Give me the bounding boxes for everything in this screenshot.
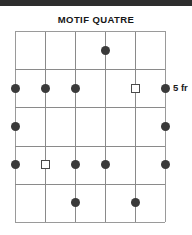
filled-marker-s1-f2 bbox=[11, 84, 20, 93]
filled-marker-s4-f4 bbox=[101, 160, 110, 169]
fret-line-1 bbox=[15, 69, 165, 70]
fret-line-4 bbox=[15, 184, 165, 185]
fret-line-5 bbox=[15, 222, 165, 223]
open-marker-s5-f2 bbox=[131, 84, 140, 93]
string-line-3 bbox=[75, 31, 76, 222]
filled-marker-s1-f4 bbox=[11, 160, 20, 169]
string-line-4 bbox=[105, 31, 106, 222]
chord-diagram bbox=[15, 31, 165, 222]
document-top-band bbox=[0, 0, 192, 6]
filled-marker-s2-f2 bbox=[41, 84, 50, 93]
filled-marker-s3-f4 bbox=[71, 160, 80, 169]
fret-line-2 bbox=[15, 107, 165, 108]
filled-marker-s6-f3 bbox=[161, 122, 170, 131]
fret-position-label: 5 fr bbox=[173, 82, 188, 93]
string-line-5 bbox=[135, 31, 136, 222]
fret-line-3 bbox=[15, 146, 165, 147]
filled-marker-s5-f5 bbox=[131, 198, 140, 207]
filled-marker-s6-f2 bbox=[161, 84, 170, 93]
open-marker-s2-f4 bbox=[41, 160, 50, 169]
filled-marker-s3-f2 bbox=[71, 84, 80, 93]
filled-marker-s3-f5 bbox=[71, 198, 80, 207]
filled-marker-s4-f1 bbox=[101, 46, 110, 55]
filled-marker-s1-f3 bbox=[11, 122, 20, 131]
filled-marker-s6-f4 bbox=[161, 160, 170, 169]
fret-line-0 bbox=[15, 31, 165, 32]
page-title: MOTIF QUATRE bbox=[0, 14, 192, 25]
string-line-2 bbox=[45, 31, 46, 222]
